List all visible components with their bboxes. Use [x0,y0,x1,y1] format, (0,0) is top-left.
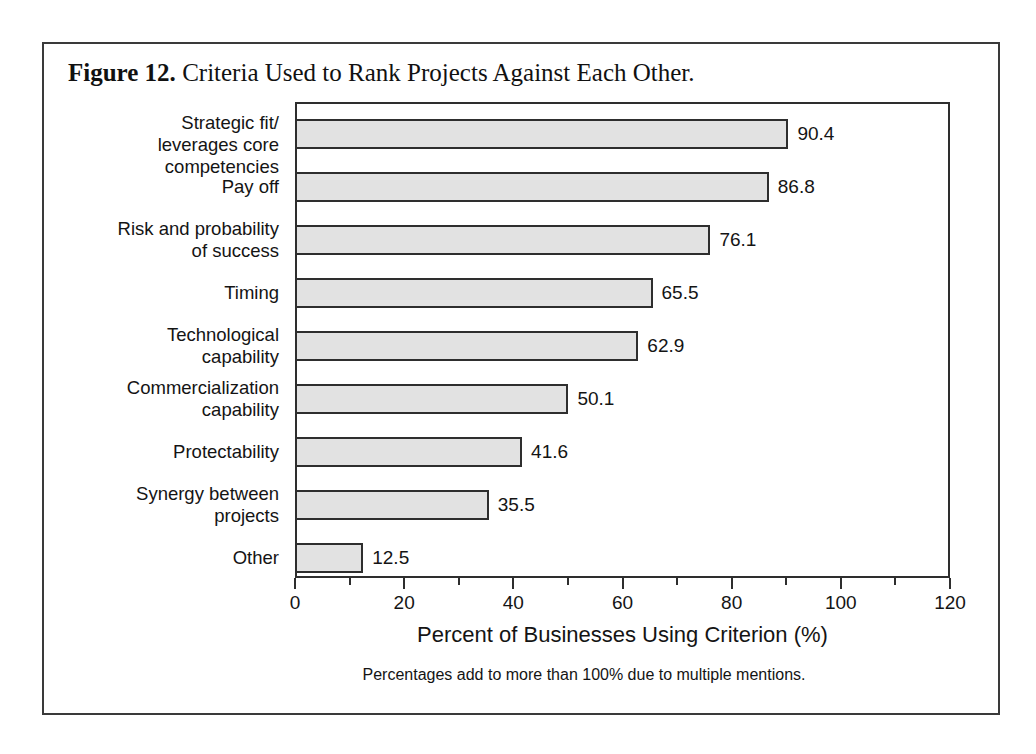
category-label: Timing [224,282,287,304]
figure-frame: Figure 12. Criteria Used to Rank Project… [42,42,1000,715]
x-tick-minor [567,578,569,585]
category-label: Protectability [173,441,287,463]
bar-row: 41.6 [295,437,950,467]
bar-value-label: 76.1 [710,229,756,251]
category-label: Synergy between projects [136,483,287,527]
bar [295,119,788,149]
x-tick-label: 0 [290,592,301,614]
x-axis-ticks [295,578,950,590]
x-tick-label: 100 [825,592,857,614]
x-tick-major [512,578,514,589]
x-tick-label: 120 [934,592,966,614]
bar-value-label: 62.9 [638,335,684,357]
category-label-column: Strategic fit/ leverages core competenci… [44,102,287,578]
x-tick-major [840,578,842,589]
bar-layer: 90.486.876.165.562.950.141.635.512.5 [295,102,950,578]
x-tick-major [622,578,624,589]
bar-row: 65.5 [295,278,950,308]
x-tick-major [731,578,733,589]
category-label: Commercialization capability [127,377,287,421]
x-tick-label: 80 [721,592,742,614]
bar-row: 12.5 [295,543,950,573]
bar-value-label: 35.5 [489,494,535,516]
category-label: Other [233,547,287,569]
bar-row: 90.4 [295,119,950,149]
x-tick-major [294,578,296,589]
category-label: Technological capability [167,324,287,368]
bar-value-label: 90.4 [788,123,834,145]
bar-row: 35.5 [295,490,950,520]
chart-area: Strategic fit/ leverages core competenci… [44,44,1002,717]
x-tick-minor [785,578,787,585]
x-tick-minor [458,578,460,585]
bar-row: 50.1 [295,384,950,414]
x-tick-label: 20 [394,592,415,614]
x-tick-major [949,578,951,589]
bar-value-label: 12.5 [363,547,409,569]
bar-value-label: 50.1 [568,388,614,410]
category-label: Risk and probability of success [118,218,287,262]
x-tick-minor [349,578,351,585]
bar [295,437,522,467]
x-axis-tick-labels: 020406080100120 [295,592,950,618]
category-label: Strategic fit/ leverages core competenci… [44,112,287,178]
bar-value-label: 65.5 [653,282,699,304]
bar [295,331,638,361]
bar-row: 86.8 [295,172,950,202]
bar-row: 76.1 [295,225,950,255]
bar [295,384,568,414]
bar [295,172,769,202]
bar-value-label: 41.6 [522,441,568,463]
bar [295,225,710,255]
bar [295,278,653,308]
x-tick-label: 60 [612,592,633,614]
bar [295,543,363,573]
category-label: Pay off [222,176,287,198]
x-tick-minor [676,578,678,585]
chart-footnote: Percentages add to more than 100% due to… [224,666,944,684]
x-tick-minor [894,578,896,585]
bar-value-label: 86.8 [769,176,815,198]
x-tick-major [403,578,405,589]
x-tick-label: 40 [503,592,524,614]
x-axis-title: Percent of Businesses Using Criterion (%… [295,622,950,648]
bar-row: 62.9 [295,331,950,361]
bar [295,490,489,520]
